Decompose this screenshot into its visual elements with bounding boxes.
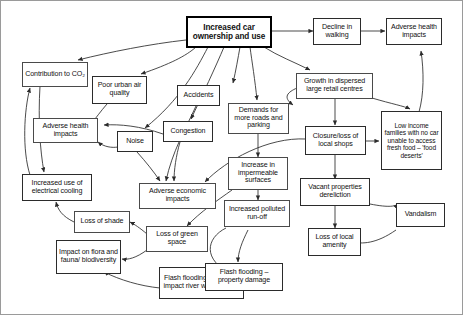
node-decline-in-walking[interactable]: Decline in walking bbox=[313, 18, 361, 45]
node-noise-label: Noise bbox=[120, 138, 150, 146]
node-increase-impermeable-surfaces-label: Increase in impermeable surfaces bbox=[231, 162, 285, 186]
node-demands-roads-parking-label: Demands for more roads and parking bbox=[231, 107, 286, 131]
node-poor-urban-air-quality[interactable]: Poor urban air quality bbox=[92, 76, 147, 104]
node-flash-flooding-property[interactable]: Flash flooding – property damage bbox=[205, 263, 283, 291]
node-noise[interactable]: Noise bbox=[117, 131, 153, 152]
node-root[interactable]: Increased car ownership and use bbox=[186, 16, 272, 48]
node-demands-roads-parking[interactable]: Demands for more roads and parking bbox=[228, 103, 289, 134]
node-impact-flora-fauna[interactable]: Impact on flora and fauna/ biodiversity bbox=[56, 240, 121, 274]
node-increased-polluted-runoff[interactable]: Increased polluted run-off bbox=[224, 200, 290, 227]
node-loss-of-green-space[interactable]: Loss of green space bbox=[146, 226, 208, 252]
node-congestion[interactable]: Congestion bbox=[163, 121, 213, 142]
node-closure-local-shops[interactable]: Closure/loss of local shops bbox=[305, 126, 366, 155]
node-increase-impermeable-surfaces[interactable]: Increase in impermeable surfaces bbox=[228, 157, 288, 190]
node-adverse-economic-impacts-label: Adverse economic impacts bbox=[142, 188, 213, 204]
node-loss-of-shade-label: Loss of shade bbox=[77, 218, 127, 226]
node-vandalism-label: Vandalism bbox=[399, 211, 442, 219]
node-adverse-health-impacts-right-label: Adverse health impacts bbox=[389, 24, 439, 40]
node-adverse-health-impacts-left[interactable]: Adverse health impacts bbox=[33, 118, 98, 143]
node-growth-retail-centres-label: Growth in dispersed large retail centres bbox=[299, 78, 370, 94]
edge-vacant-vandalism bbox=[370, 204, 398, 206]
edge-runoff-floodprop bbox=[238, 230, 248, 262]
edge-root-co2 bbox=[78, 40, 186, 60]
node-contribution-co2[interactable]: Contribution to CO₂ bbox=[22, 62, 88, 87]
edge-root-demands bbox=[250, 47, 257, 100]
node-flash-flooding-property-label: Flash flooding – property damage bbox=[208, 269, 280, 285]
edge-growth-lowincome bbox=[372, 98, 410, 109]
diagram-canvas: Increased car ownership and use Contribu… bbox=[0, 0, 464, 316]
node-low-income-food-deserts-label: Low income families with no car unable t… bbox=[384, 122, 439, 159]
node-loss-of-local-amenity[interactable]: Loss of local amenity bbox=[308, 228, 361, 256]
node-root-label: Increased car ownership and use bbox=[190, 23, 268, 41]
node-vacant-properties-dereliction[interactable]: Vacant properties dereliction bbox=[300, 178, 370, 206]
edge-green-shade bbox=[130, 222, 147, 234]
edge-noise-economic bbox=[137, 152, 160, 181]
node-increased-polluted-runoff-label: Increased polluted run-off bbox=[227, 206, 287, 222]
node-vacant-properties-dereliction-label: Vacant properties dereliction bbox=[303, 184, 367, 200]
node-low-income-food-deserts[interactable]: Low income families with no car unable t… bbox=[381, 111, 442, 170]
node-accidents[interactable]: Accidents bbox=[177, 85, 220, 106]
node-vandalism[interactable]: Vandalism bbox=[396, 203, 445, 227]
node-decline-in-walking-label: Decline in walking bbox=[316, 24, 358, 40]
edge-shade-cooling bbox=[56, 202, 74, 222]
node-loss-of-local-amenity-label: Loss of local amenity bbox=[311, 234, 358, 250]
node-loss-of-green-space-label: Loss of green space bbox=[149, 231, 205, 247]
node-poor-urban-air-quality-label: Poor urban air quality bbox=[95, 82, 144, 98]
node-accidents-label: Accidents bbox=[180, 92, 217, 100]
edge-noise-health bbox=[98, 142, 118, 147]
node-increased-electrical-cooling[interactable]: Increased use of electrical cooling bbox=[22, 174, 92, 201]
edge-root-air bbox=[141, 47, 196, 74]
edge-floodriver-flora bbox=[104, 272, 160, 288]
node-closure-local-shops-label: Closure/loss of local shops bbox=[308, 133, 363, 149]
node-impact-flora-fauna-label: Impact on flora and fauna/ biodiversity bbox=[59, 249, 118, 265]
edge-green-flora bbox=[122, 250, 147, 259]
edge-congestion-economic bbox=[174, 142, 180, 181]
node-adverse-health-impacts-right[interactable]: Adverse health impacts bbox=[386, 18, 442, 45]
edge-root-growth bbox=[264, 47, 310, 70]
node-congestion-label: Congestion bbox=[166, 128, 210, 136]
edge-cooling-co2 bbox=[25, 88, 30, 175]
node-growth-retail-centres[interactable]: Growth in dispersed large retail centres bbox=[296, 73, 373, 99]
node-loss-of-shade[interactable]: Loss of shade bbox=[74, 211, 130, 233]
node-contribution-co2-label: Contribution to CO₂ bbox=[25, 71, 85, 79]
node-increased-electrical-cooling-label: Increased use of electrical cooling bbox=[25, 180, 89, 196]
edge-root-congestion bbox=[191, 47, 224, 119]
edge-lowincome-health bbox=[419, 51, 423, 112]
edge-root-accidents bbox=[233, 47, 240, 83]
node-adverse-economic-impacts[interactable]: Adverse economic impacts bbox=[139, 183, 216, 209]
node-adverse-health-impacts-left-label: Adverse health impacts bbox=[36, 123, 95, 139]
